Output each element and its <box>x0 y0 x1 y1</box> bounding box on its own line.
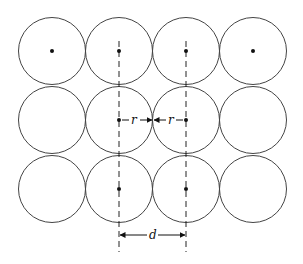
circle <box>220 156 287 223</box>
center-dot <box>50 49 54 53</box>
circle <box>19 87 86 154</box>
circles-group <box>19 18 287 223</box>
circle <box>220 87 287 154</box>
radius-label-right: r <box>168 113 175 127</box>
radius-annotation-left: r <box>122 113 152 127</box>
center-dot <box>117 187 121 191</box>
center-dot <box>184 187 188 191</box>
center-dot <box>184 49 188 53</box>
center-dot <box>184 118 188 122</box>
circle-packing-diagram: r r d <box>0 0 303 264</box>
spacing-label: d <box>149 228 157 242</box>
radius-annotation-right: r <box>154 113 183 127</box>
circle <box>19 156 86 223</box>
radius-label-left: r <box>131 113 138 127</box>
dashed-center-lines <box>119 41 186 252</box>
center-dot <box>117 49 121 53</box>
spacing-annotation: d <box>120 228 185 242</box>
center-dot <box>117 118 121 122</box>
center-dot <box>251 49 255 53</box>
